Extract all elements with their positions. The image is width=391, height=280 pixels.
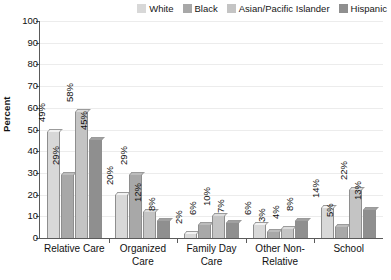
bar-top-face: [363, 207, 379, 210]
y-tick-label: 50: [8, 124, 38, 135]
bar-face: [281, 229, 294, 238]
bar-value-label: 8%: [284, 198, 295, 211]
x-axis-label: Relative Care: [40, 243, 109, 256]
bar-value-label: 14%: [310, 185, 321, 198]
legend-item-hispanic: Hispanic: [339, 4, 387, 14]
bar-top-face: [89, 137, 105, 140]
x-tick-mark: [314, 238, 315, 243]
bar-value-label: 6%: [187, 202, 198, 215]
legend-swatch-icon: [339, 4, 348, 13]
bar-chart: WhiteBlackAsian/Pacific IslanderHispanic…: [0, 0, 391, 280]
legend-item-black: Black: [183, 4, 218, 14]
legend-label: Asian/Pacific Islander: [239, 4, 330, 14]
bar-group: 20%29%12%8%: [109, 21, 178, 238]
x-axis-label-line: School: [314, 243, 383, 256]
bar-value-label: 12%: [132, 189, 143, 202]
bar-face: [335, 227, 348, 238]
bar-group: 2%6%10%7%: [177, 21, 246, 238]
legend-item-asian-pacific-islander: Asian/Pacific Islander: [227, 4, 330, 14]
bar-value-label: 13%: [352, 187, 363, 200]
bar-face: [61, 175, 74, 238]
x-axis-label: School: [314, 243, 383, 256]
bar-face: [295, 221, 308, 238]
legend-label: Black: [195, 4, 218, 14]
x-axis-label-line: Relative: [246, 256, 315, 269]
bar-value-label: 10%: [201, 193, 212, 206]
x-axis-label-line: Other Non-: [246, 243, 315, 256]
bar-value-label: 7%: [215, 200, 226, 213]
bar-face: [198, 225, 211, 238]
bar-face: [89, 140, 102, 238]
bar-top-face: [253, 222, 269, 225]
y-tick-label: 80: [8, 58, 38, 69]
bar-face: [75, 112, 88, 238]
x-axis-label-line: Organized: [109, 243, 178, 256]
x-axis-label-line: Care: [177, 256, 246, 269]
x-tick-mark: [109, 238, 110, 243]
bar-value-label: 22%: [338, 167, 349, 180]
x-axis-baseline: [40, 238, 383, 239]
bar-face: [267, 232, 280, 239]
bar-top-face: [226, 220, 242, 223]
x-tick-mark: [177, 238, 178, 243]
legend-swatch-icon: [227, 4, 236, 13]
bar-top-face: [129, 172, 145, 175]
bar-value-label: 45%: [78, 117, 89, 130]
bar-group: 6%3%4%8%: [246, 21, 315, 238]
bar-value-label: 49%: [36, 109, 47, 122]
bar-face: [226, 223, 239, 238]
x-tick-mark: [246, 238, 247, 243]
y-tick-label: 100: [8, 15, 38, 26]
bar-face: [184, 234, 197, 238]
bar-face: [143, 212, 156, 238]
bar-top-face: [212, 213, 228, 216]
bar-value-label: 8%: [146, 198, 157, 211]
x-axis-labels: Relative CareOrganizedCareFamily DayCare…: [40, 243, 383, 279]
y-tick-label: 40: [8, 145, 38, 156]
bar-value-label: 4%: [270, 206, 281, 219]
legend-label: Hispanic: [351, 4, 387, 14]
bar-face: [212, 216, 225, 238]
bar-value-label: 20%: [104, 172, 115, 185]
bar-group: 49%29%58%45%: [40, 21, 109, 238]
y-tick-label: 10: [8, 210, 38, 221]
bar-value-label: 29%: [118, 152, 129, 165]
bar-value-label: 2%: [173, 211, 184, 224]
legend-swatch-icon: [137, 4, 146, 13]
bar-value-label: 3%: [256, 209, 267, 222]
bar-face: [115, 195, 128, 238]
bar-group: 14%5%22%13%: [314, 21, 383, 238]
legend-label: White: [149, 4, 173, 14]
x-axis-label-line: Family Day: [177, 243, 246, 256]
y-tick-label: 70: [8, 80, 38, 91]
bar-face: [253, 225, 266, 238]
y-tick-label: 90: [8, 37, 38, 48]
x-axis-label: OrganizedCare: [109, 243, 178, 268]
bar-face: [363, 210, 376, 238]
bar-value-label: 29%: [50, 152, 61, 165]
y-tick-label: 30: [8, 167, 38, 178]
x-axis-label-line: Relative Care: [40, 243, 109, 256]
y-tick-label: 60: [8, 102, 38, 113]
bar-top-face: [295, 218, 311, 221]
bar-top-face: [47, 129, 63, 132]
x-axis-label-line: Care: [109, 256, 178, 269]
legend-swatch-icon: [183, 4, 192, 13]
x-axis-label: Other Non-Relative: [246, 243, 315, 268]
bar-face: [157, 221, 170, 238]
bar-value-label: 5%: [324, 204, 335, 217]
legend-item-white: White: [137, 4, 173, 14]
plot-area: 100908070605040302010049%29%58%45%20%29%…: [40, 21, 383, 238]
y-tick-label: 20: [8, 189, 38, 200]
chart-legend: WhiteBlackAsian/Pacific IslanderHispanic: [0, 1, 391, 16]
bar-value-label: 6%: [242, 202, 253, 215]
bar-value-label: 58%: [64, 89, 75, 102]
bar-top-face: [157, 218, 173, 221]
y-tick-label: 0: [8, 232, 38, 243]
x-axis-label: Family DayCare: [177, 243, 246, 268]
